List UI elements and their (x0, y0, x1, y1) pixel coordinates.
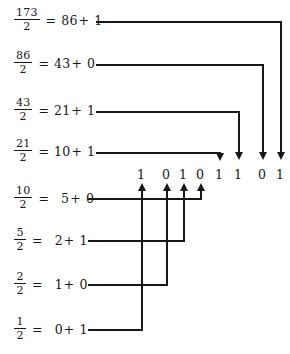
equals-sign: = (38, 191, 49, 206)
numerator: 2 (14, 271, 25, 283)
fraction-3: 43 2 (14, 97, 32, 122)
result-bit-7: 1 (273, 168, 287, 182)
arrowhead-row5 (197, 183, 205, 191)
fraction-7: 2 2 (14, 271, 26, 296)
denominator: 2 (18, 198, 29, 210)
denominator: 2 (18, 151, 29, 163)
wire-row7-vertical (166, 190, 168, 286)
remainder: 1 (87, 103, 95, 118)
equals-sign: = (46, 13, 57, 28)
result-bit-1: 0 (159, 168, 173, 182)
denominator: 2 (14, 284, 25, 296)
equation-row-2: 86 2 = 43 + 0 (14, 51, 95, 76)
denominator: 2 (18, 63, 29, 75)
equation-row-7: 2 2 = 1 + 0 (14, 272, 88, 297)
numerator: 173 (14, 7, 40, 19)
fraction-4: 21 2 (14, 138, 32, 163)
equals-sign: = (38, 144, 49, 159)
equals-sign: = (32, 277, 43, 292)
wire-row6-horizontal (88, 240, 185, 242)
arrowhead-row4 (216, 153, 224, 161)
numerator: 10 (14, 185, 32, 197)
equals-sign: = (38, 103, 49, 118)
equals-sign: = (38, 56, 49, 71)
arrowhead-row8 (138, 183, 146, 191)
equals-sign: = (32, 233, 43, 248)
wire-row2-horizontal (96, 64, 264, 66)
binary-conversion-diagram: 173 2 = 86 + 1 86 2 = 43 + 0 43 2 = 21 +… (0, 0, 290, 354)
result-bit-5: 1 (231, 168, 245, 182)
quotient: 10 (54, 144, 70, 159)
wire-row3-vertical (238, 111, 240, 154)
result-bit-0: 1 (134, 168, 148, 182)
remainder: 1 (80, 233, 88, 248)
arrowhead-row7 (163, 183, 171, 191)
result-bit-2: 1 (176, 168, 190, 182)
numerator: 86 (14, 50, 32, 62)
plus-sign: + (64, 322, 75, 337)
fraction-8: 1 2 (14, 316, 26, 341)
arrowhead-row3 (235, 152, 243, 160)
numerator: 1 (14, 316, 25, 328)
plus-sign: + (71, 56, 82, 71)
plus-sign: + (71, 144, 82, 159)
fraction-5: 10 2 (14, 185, 32, 210)
denominator: 2 (18, 110, 29, 122)
result-bit-3: 0 (193, 168, 207, 182)
arrowhead-row6 (180, 183, 188, 191)
plus-sign: + (64, 277, 75, 292)
quotient: 43 (54, 56, 70, 71)
arrowhead-row2 (259, 152, 267, 160)
remainder: 0 (80, 277, 88, 292)
plus-sign: + (71, 103, 82, 118)
plus-sign: + (64, 233, 75, 248)
equation-row-8: 1 2 = 0 + 1 (14, 317, 88, 342)
wire-row5-vertical (200, 190, 202, 200)
wire-row1-vertical (280, 21, 282, 154)
plus-sign: + (70, 191, 81, 206)
result-bit-4: 1 (212, 168, 226, 182)
fraction-1: 173 2 (14, 7, 40, 32)
equals-sign: = (32, 322, 43, 337)
quotient: 21 (54, 103, 70, 118)
numerator: 43 (14, 97, 32, 109)
denominator: 2 (21, 20, 32, 32)
quotient: 0 (55, 322, 63, 337)
fraction-6: 5 2 (14, 227, 26, 252)
numerator: 21 (14, 138, 32, 150)
remainder: 1 (87, 144, 95, 159)
numerator: 5 (14, 227, 25, 239)
equation-row-4: 21 2 = 10 + 1 (14, 139, 95, 164)
wire-row8-vertical (141, 190, 143, 331)
plus-sign: + (79, 13, 90, 28)
equation-row-6: 5 2 = 2 + 1 (14, 228, 88, 253)
arrowhead-row1 (277, 152, 285, 160)
quotient: 2 (55, 233, 63, 248)
quotient: 1 (55, 277, 63, 292)
wire-row4-horizontal (96, 152, 221, 154)
result-bit-6: 0 (255, 168, 269, 182)
quotient: 86 (61, 13, 77, 28)
wire-row1-horizontal (96, 21, 282, 23)
remainder: 1 (80, 322, 88, 337)
wire-row2-vertical (262, 64, 264, 154)
equation-row-1: 173 2 = 86 + 1 (14, 8, 102, 33)
denominator: 2 (14, 329, 25, 341)
wire-row6-vertical (183, 190, 185, 242)
equation-row-5: 10 2 = 5 + 0 (14, 186, 94, 211)
quotient: 5 (61, 191, 69, 206)
remainder: 0 (87, 56, 95, 71)
wire-row7-horizontal (88, 284, 168, 286)
equation-row-3: 43 2 = 21 + 1 (14, 98, 95, 123)
wire-row3-horizontal (96, 111, 240, 113)
wire-row8-horizontal (88, 329, 143, 331)
fraction-2: 86 2 (14, 50, 32, 75)
denominator: 2 (14, 240, 25, 252)
